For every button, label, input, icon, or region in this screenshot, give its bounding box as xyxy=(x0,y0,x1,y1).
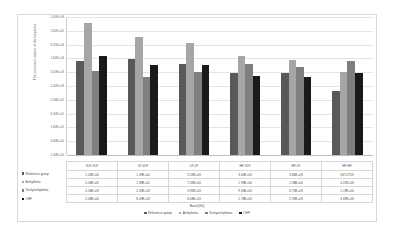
bar[interactable] xyxy=(296,67,304,155)
legend-label: CHF xyxy=(243,211,250,215)
table-cell: 8.09E+03 xyxy=(118,194,168,203)
bar[interactable] xyxy=(355,73,363,155)
table-column: HF-HF637.07534.22E+031.19E+043.69E+03 xyxy=(321,161,373,203)
table-cell: 9.23E+03 xyxy=(169,170,219,178)
y-tick-label: 4.00E+00 xyxy=(50,139,64,143)
table-cell: 1.49E+04 xyxy=(118,170,168,178)
legend-item[interactable]: Arrhythmia xyxy=(179,211,198,215)
table-column: HF-LF3.84E+031.38E+046.73E+032.59E+03 xyxy=(270,161,321,203)
y-tick-label: 4.10E+03 xyxy=(50,70,64,74)
y-tick-label: 2.56E+02 xyxy=(50,98,64,102)
bar-group xyxy=(271,17,322,155)
table-row-label-text: CHF xyxy=(26,197,32,201)
bar-group xyxy=(168,17,219,155)
table-cell: 3.84E+03 xyxy=(271,170,321,178)
table-cell: 7.33E+04 xyxy=(169,178,219,186)
table-cell: 2.59E+03 xyxy=(271,194,321,203)
data-table-row-labels: Reference groupArrhythmiaTachyarrhythmia… xyxy=(21,161,66,203)
table-column-header: HF-LF xyxy=(271,161,321,170)
bar[interactable] xyxy=(179,64,187,155)
legend-item[interactable]: Reference group xyxy=(144,211,172,215)
table-cell: 1.38E+04 xyxy=(271,178,321,186)
legend-color-swatch-icon xyxy=(239,212,242,215)
bar-groups xyxy=(66,17,373,155)
table-column: LF-VLF1.49E+041.38E+052.35E+038.09E+03 xyxy=(117,161,168,203)
bar[interactable] xyxy=(230,73,238,155)
bar[interactable] xyxy=(238,56,246,155)
bar[interactable] xyxy=(99,56,107,155)
table-cell: 637.0753 xyxy=(322,170,372,178)
bar[interactable] xyxy=(253,76,261,155)
legend-item[interactable]: CHF xyxy=(239,211,249,215)
y-tick-label: 2.62E+05 xyxy=(50,29,64,33)
data-table: Reference groupArrhythmiaTachyarrhythmia… xyxy=(21,161,373,203)
table-row-label: Arrhythmia xyxy=(21,178,66,186)
bar-group xyxy=(66,17,117,155)
table-cell: 4.22E+03 xyxy=(322,178,372,186)
legend-label: Arrhythmia xyxy=(183,211,198,215)
bar[interactable] xyxy=(347,61,355,155)
table-cell: 2.35E+03 xyxy=(118,186,168,194)
bar[interactable] xyxy=(202,65,210,155)
y-tick-label: 1.64E+04 xyxy=(50,56,64,60)
table-column-header: LF-VLF xyxy=(118,161,168,170)
table-cell: 4.56E+03 xyxy=(67,186,117,194)
series-color-swatch-icon xyxy=(22,172,24,174)
bar-group xyxy=(117,17,168,155)
table-cell: 2.08E+04 xyxy=(67,194,117,203)
table-corner-spacer xyxy=(21,161,66,169)
bar[interactable] xyxy=(281,73,289,155)
table-column-header: HF-VLF xyxy=(220,161,270,170)
bar-group xyxy=(220,17,271,155)
table-cell: 3.69E+03 xyxy=(322,194,372,203)
table-row-label: Reference group xyxy=(21,169,66,177)
table-cell: 1.38E+05 xyxy=(118,178,168,186)
table-cell: 1.19E+04 xyxy=(322,186,372,194)
bar[interactable] xyxy=(289,60,297,155)
bar-group xyxy=(322,17,373,155)
data-table-columns: VLF-VLF1.24E+045.34E+054.56E+032.08E+04L… xyxy=(66,161,373,203)
table-cell: 8.08E+03 xyxy=(169,194,219,203)
bar[interactable] xyxy=(135,37,143,155)
bar[interactable] xyxy=(304,77,312,156)
legend-color-swatch-icon xyxy=(205,212,208,215)
series-color-swatch-icon xyxy=(22,181,24,183)
table-row-label: Tachyarrhythmia xyxy=(21,186,66,194)
bar[interactable] xyxy=(340,72,348,155)
bar[interactable] xyxy=(92,71,100,155)
table-row-label-text: Tachyarrhythmia xyxy=(26,188,49,192)
table-row-label: CHF xyxy=(21,195,66,203)
bar[interactable] xyxy=(76,61,84,155)
table-row-label-text: Reference group xyxy=(26,172,49,176)
y-tick-label: 1.02E+03 xyxy=(50,84,64,88)
table-column: LF-LF9.23E+037.33E+043.92E+038.08E+03 xyxy=(168,161,219,203)
table-cell: 1.98E+04 xyxy=(220,178,270,186)
y-tick-label: 6.40E+01 xyxy=(50,112,64,116)
plot-area: The maximum values of the bispectra 1.00… xyxy=(18,15,376,161)
bar[interactable] xyxy=(143,77,151,155)
table-column-header: LF-LF xyxy=(169,161,219,170)
legend-item[interactable]: Tachyarrhythmia xyxy=(205,211,232,215)
table-cell: 6.73E+03 xyxy=(271,186,321,194)
bar[interactable] xyxy=(84,23,92,155)
y-axis-tick-labels: 1.00E+062.62E+056.55E+041.64E+044.10E+03… xyxy=(36,17,64,155)
bar[interactable] xyxy=(245,64,253,155)
table-column: HF-VLF3.60E+031.98E+049.35E+032.78E+03 xyxy=(219,161,270,203)
bar[interactable] xyxy=(194,72,202,155)
legend-label: Reference group xyxy=(148,211,172,215)
x-axis-title: Band [Hz] xyxy=(18,204,376,208)
bar[interactable] xyxy=(332,91,340,155)
table-cell: 3.60E+03 xyxy=(220,170,270,178)
y-tick-label: 6.55E+04 xyxy=(50,43,64,47)
chart-container: The maximum values of the bispectra 1.00… xyxy=(17,14,377,222)
bar[interactable] xyxy=(150,65,158,155)
table-row-label-text: Arrhythmia xyxy=(26,180,41,184)
gridline xyxy=(67,155,373,156)
table-cell: 5.34E+05 xyxy=(67,178,117,186)
table-column-header: VLF-VLF xyxy=(67,161,117,170)
bar[interactable] xyxy=(186,43,194,155)
y-tick-label: 1.00E+00 xyxy=(50,153,64,157)
legend-color-swatch-icon xyxy=(144,212,147,215)
bar[interactable] xyxy=(128,59,136,155)
series-color-swatch-icon xyxy=(22,198,24,200)
